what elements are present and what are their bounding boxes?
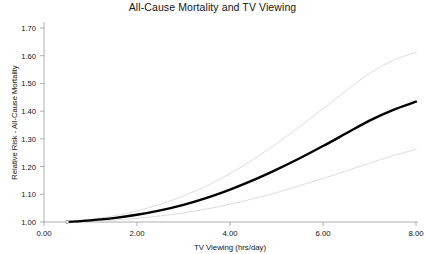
x-tick-label: 6.00 [301, 229, 345, 238]
chart-figure: All-Cause Mortality and TV Viewing Relat… [0, 0, 425, 254]
axis-lines [44, 22, 418, 222]
plot-area [0, 0, 425, 254]
data-curves [67, 52, 416, 222]
x-tick-label: 4.00 [208, 229, 252, 238]
x-tick-label: 2.00 [115, 229, 159, 238]
reference-point-marker [66, 220, 69, 223]
x-tick-label: 8.00 [394, 229, 425, 238]
x-tick-label: 0.00 [22, 229, 66, 238]
